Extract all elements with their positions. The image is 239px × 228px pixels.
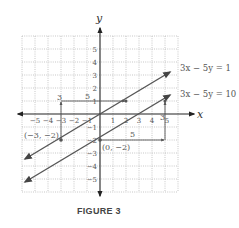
x-axis-label: x [197,108,204,121]
y-axis-label: y [95,12,103,25]
svg-text:−2: −2 [69,117,79,125]
rise-label-1: 3 [57,93,62,102]
equation-label-2: 3x − 5y = 10 [180,89,236,99]
figure-caption: FIGURE 3 [77,206,121,216]
svg-text:−4: −4 [43,117,54,125]
svg-text:4: 4 [93,59,98,67]
point-label-neg3-neg2: (−3, −2) [24,131,59,140]
rise-label-2: 3 [160,113,165,122]
y-tick-labels: 5 4 3 2 1 −1 −2 −3 −4 −5 [87,46,98,184]
point-neg3-neg2 [59,138,63,142]
svg-text:2: 2 [93,85,97,93]
line-3x-5y-1 [25,72,170,159]
run-label-1: 5 [85,92,90,101]
point-0-neg2 [98,138,102,142]
svg-text:3: 3 [93,72,97,80]
svg-text:−5: −5 [30,117,40,125]
svg-text:1: 1 [93,98,97,106]
equation-label-1: 3x − 5y = 1 [180,63,231,73]
point-5-1 [164,100,167,103]
svg-text:3: 3 [137,117,141,125]
coordinate-figure: x y −5 −4 −3 −2 −1 1 2 3 4 5 5 4 3 2 1 −… [0,0,239,228]
svg-text:4: 4 [150,117,155,125]
point-2-1 [125,100,128,103]
run-label-2: 5 [130,130,135,139]
svg-text:−5: −5 [87,176,97,184]
svg-text:5: 5 [93,46,97,54]
point-label-0-neg2: (0, −2) [102,143,130,152]
svg-text:−1: −1 [87,124,97,132]
svg-text:−3: −3 [87,150,97,158]
svg-text:−4: −4 [87,163,98,171]
svg-text:1: 1 [111,117,115,125]
